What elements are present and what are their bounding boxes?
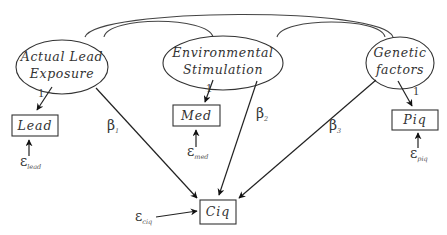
latent-label-line1: Environmental — [171, 45, 273, 60]
path-arrow-beta2 — [219, 81, 257, 195]
latent-node-actual-lead-exposure: Actual Lead Exposure — [16, 40, 108, 94]
latent-label-line1: Genetic — [373, 45, 426, 60]
path-arrow-beta3 — [239, 80, 376, 198]
path-label-beta1: β1 — [107, 117, 119, 135]
error-label-med: εmed — [187, 143, 208, 161]
loading-label-med: 1 — [206, 81, 212, 95]
sem-diagram: Actual Lead Exposure Environmental Stimu… — [0, 0, 447, 235]
error-arrow-ciq — [156, 211, 197, 217]
observed-node-med: Med — [173, 105, 220, 126]
observed-label: Ciq — [206, 204, 231, 219]
latent-label-line2: Stimulation — [183, 62, 263, 77]
loading-label-piq: 1 — [413, 84, 419, 98]
latent-label-line2: Exposure — [29, 66, 94, 81]
loading-label-lead: 1 — [38, 86, 44, 100]
covariance-arcs — [85, 14, 393, 37]
path-label-beta3: β3 — [329, 117, 341, 135]
error-label-lead: εlead — [20, 153, 41, 171]
latent-node-environmental-stimulation: Environmental Stimulation — [163, 36, 283, 90]
covariance-arc-lead-environment — [104, 21, 213, 37]
error-label-piq: εpiq — [410, 145, 428, 163]
observed-node-piq: Piq — [392, 110, 438, 130]
observed-label: Piq — [402, 112, 426, 127]
observed-label: Lead — [16, 118, 52, 133]
latent-label-line2: factors — [375, 62, 424, 77]
error-label-ciq: εciq — [135, 208, 152, 226]
observed-node-ciq: Ciq — [200, 200, 236, 224]
latent-node-genetic-factors: Genetic factors — [366, 37, 434, 89]
latent-label-line1: Actual Lead — [20, 49, 103, 64]
observed-node-lead: Lead — [12, 115, 58, 136]
covariance-arc-lead-genetic — [85, 14, 393, 37]
observed-label: Med — [180, 108, 212, 123]
path-label-beta2: β2 — [256, 105, 268, 123]
